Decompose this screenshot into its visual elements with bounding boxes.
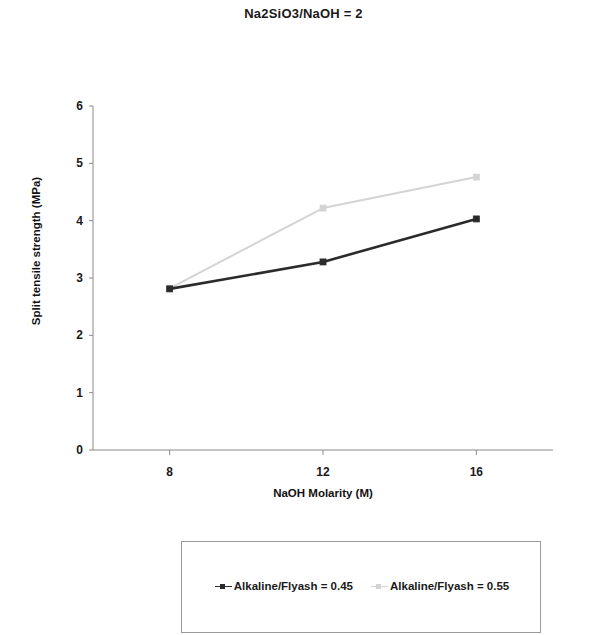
series-marker-1 xyxy=(320,205,326,211)
series-marker-0 xyxy=(473,216,479,222)
y-axis-tick-label: 4 xyxy=(57,215,83,227)
x-axis-tick-label: 16 xyxy=(456,466,496,478)
legend-item[interactable]: Alkaline/Flyash = 0.55 xyxy=(371,580,509,592)
y-axis-tick-label: 2 xyxy=(57,329,83,341)
series-line-0 xyxy=(170,219,477,289)
legend-marker-icon xyxy=(220,584,225,589)
x-axis-title: NaOH Molarity (M) xyxy=(93,487,553,499)
legend-marker-icon xyxy=(376,584,381,589)
legend-swatch-icon xyxy=(371,582,388,591)
plot-area xyxy=(93,106,553,450)
chart-title: Na2SiO3/NaOH = 2 xyxy=(0,6,607,21)
y-axis-title: Split tensile strength (MPa) xyxy=(30,111,42,391)
x-axis-tick-label: 12 xyxy=(303,466,343,478)
y-axis-tick-label: 1 xyxy=(57,387,83,399)
legend-item-label: Alkaline/Flyash = 0.55 xyxy=(390,580,509,592)
y-axis-tick-label: 0 xyxy=(57,444,83,456)
series-marker-0 xyxy=(320,259,326,265)
y-axis-tick-label: 6 xyxy=(57,100,83,112)
plot-svg xyxy=(93,106,553,450)
legend-item[interactable]: Alkaline/Flyash = 0.45 xyxy=(215,580,353,592)
chart-figure: Na2SiO3/NaOH = 2 Split tensile strength … xyxy=(0,0,607,635)
legend-item-label: Alkaline/Flyash = 0.45 xyxy=(234,580,353,592)
y-axis-tick-label: 5 xyxy=(57,157,83,169)
y-axis-tick-label: 3 xyxy=(57,272,83,284)
x-axis-tick-label: 8 xyxy=(150,466,190,478)
series-marker-1 xyxy=(473,174,479,180)
legend-box: Alkaline/Flyash = 0.45Alkaline/Flyash = … xyxy=(181,541,541,633)
legend-swatch-icon xyxy=(215,582,232,591)
series-marker-0 xyxy=(167,286,173,292)
legend-items: Alkaline/Flyash = 0.45Alkaline/Flyash = … xyxy=(182,580,542,592)
